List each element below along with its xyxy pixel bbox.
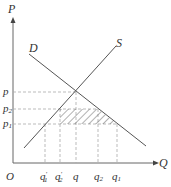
origin-label: O [6, 170, 14, 182]
tick-label-q2-prime: q′2 [55, 170, 63, 184]
supply-demand-diagram: P Q O D S p p2 p1 q′1 q′2 q q2 q1 [0, 0, 171, 187]
curve-label-s: S [116, 36, 122, 50]
tick-label-q1-prime: q′1 [40, 170, 48, 184]
tick-label-p: p [2, 85, 9, 97]
tick-label-p1: p1 [2, 117, 12, 130]
tick-label-q: q [73, 170, 79, 182]
curve-label-d: D [28, 41, 38, 55]
demand-curve [29, 54, 146, 146]
axis-label-p: P [7, 2, 16, 16]
tick-label-p2: p2 [2, 102, 13, 115]
y-axis-arrow-icon [11, 17, 16, 23]
shaded-surplus-area [60, 109, 120, 124]
axis-label-q: Q [159, 156, 168, 170]
tick-label-q1: q1 [112, 170, 121, 183]
tick-label-q2: q2 [94, 170, 104, 183]
